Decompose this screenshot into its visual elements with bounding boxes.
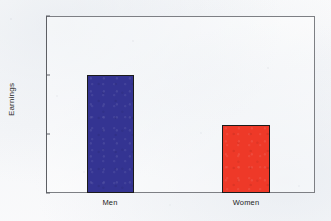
- bar-men[interactable]: [87, 75, 134, 193]
- scanned-page: Earnings 120 100 80 60: [0, 0, 331, 221]
- x-label-men: Men: [102, 198, 117, 207]
- x-label-women: Women: [233, 198, 260, 207]
- y-axis-title: Earnings: [7, 70, 16, 130]
- y-tick-mark: [46, 74, 50, 75]
- bar-chart-figure: Earnings 120 100 80 60: [0, 0, 331, 221]
- bar-men-fill: [88, 76, 133, 192]
- bar-women-fill: [223, 126, 269, 192]
- y-tick-mark: [46, 133, 50, 134]
- y-tick-mark: [46, 15, 50, 16]
- y-tick-mark: [46, 192, 50, 193]
- bar-women[interactable]: [222, 125, 270, 193]
